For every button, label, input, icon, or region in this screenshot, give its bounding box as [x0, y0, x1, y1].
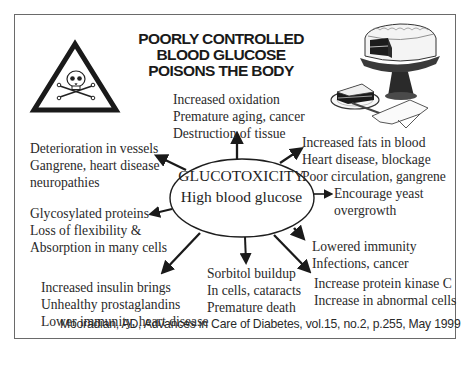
effect-line: Glycosylated proteins — [30, 205, 167, 222]
effect-lower-right-1: Lowered immunity Infections, cancer — [312, 238, 417, 272]
effect-lower-right-2: Increase protein kinase C Increase in ab… — [314, 275, 456, 309]
effect-line: Premature death — [207, 299, 301, 316]
effect-line: Destruction of tissue — [173, 125, 305, 142]
effect-top: Increased oxidation Premature aging, can… — [173, 91, 305, 142]
arrow-down — [245, 237, 246, 262]
arrow-upper-right — [280, 149, 301, 163]
arrow-lower-right-short — [294, 228, 303, 238]
effect-line: Increase protein kinase C — [314, 275, 456, 292]
title-line-3: POISONS THE BODY — [136, 63, 306, 79]
citation: Mooradian, AD, Advances in Care of Diabe… — [60, 317, 461, 331]
effect-line: Infections, cancer — [312, 255, 417, 272]
effect-line: neuropathies — [30, 174, 159, 191]
effect-line: Absorption in many cells — [30, 239, 167, 256]
poison-warning-triangle-icon — [34, 44, 116, 110]
effect-line: Increased insulin brings — [41, 279, 208, 296]
effect-bottom: Sorbitol buildup In cells, cataracts Pre… — [207, 265, 301, 316]
effect-left: Glycosylated proteins Loss of flexibilit… — [30, 205, 167, 256]
cake-illustration — [331, 24, 440, 128]
effect-line: Premature aging, cancer — [173, 108, 305, 125]
effect-right: Encourage yeast overgrowth — [334, 185, 423, 219]
effect-line: Encourage yeast — [334, 185, 423, 202]
effect-line: Lowered immunity — [312, 238, 417, 255]
effect-line: Loss of flexibility & — [30, 222, 167, 239]
effect-line: Unhealthy prostaglandins — [41, 296, 208, 313]
effect-upper-right: Increased fats in blood Heart disease, b… — [302, 134, 446, 185]
effect-line: Heart disease, blockage — [302, 151, 446, 168]
title-line-1: POORLY CONTROLLED — [136, 31, 306, 47]
effect-upper-left: Deterioration in vessels Gangrene, heart… — [30, 140, 159, 191]
page-title: POORLY CONTROLLED BLOOD GLUCOSE POISONS … — [136, 31, 306, 79]
center-subtitle: High blood glucose — [170, 186, 313, 207]
arrow-lower-left — [163, 233, 200, 272]
effect-line: Gangrene, heart disease — [30, 157, 159, 174]
effect-line: Deterioration in vessels — [30, 140, 159, 157]
effect-line: Increase in abnormal cells — [314, 292, 456, 309]
center-title: GLUCOTOXICITY — [170, 165, 313, 186]
effect-line: In cells, cataracts — [207, 282, 301, 299]
effect-line: Increased oxidation — [173, 91, 305, 108]
center-label: GLUCOTOXICITY High blood glucose — [170, 165, 313, 207]
effect-line: Increased fats in blood — [302, 134, 446, 151]
effect-line: Sorbitol buildup — [207, 265, 301, 282]
effect-line: Poor circulation, gangrene — [302, 168, 446, 185]
effect-line: overgrowth — [334, 202, 423, 219]
title-line-2: BLOOD GLUCOSE — [136, 47, 306, 63]
